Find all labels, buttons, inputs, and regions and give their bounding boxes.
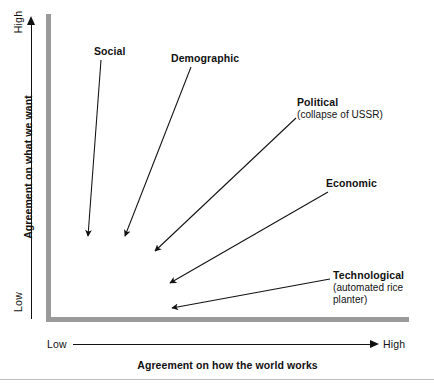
annotation-label-technological: Technological (automated rice planter): [333, 269, 404, 307]
x-axis-title: Agreement on how the world works: [46, 359, 409, 371]
y-axis-title: Agreement on what we want: [22, 82, 34, 252]
y-axis-low-label: Low: [12, 282, 24, 322]
annotation-title-technological: Technological: [333, 269, 404, 282]
bottom-divider: [0, 379, 434, 380]
annotation-arrow-political: [155, 118, 296, 251]
annotation-arrow-economic: [170, 192, 328, 283]
y-axis-bar: [46, 14, 51, 322]
x-axis-bar: [46, 317, 409, 322]
annotation-title-demographic: Demographic: [171, 52, 239, 65]
x-axis-low-label: Low: [47, 338, 67, 350]
x-axis-arrowhead-icon: [370, 340, 379, 348]
x-axis-direction-line: [73, 344, 372, 345]
annotation-title-economic: Economic: [326, 177, 377, 190]
annotation-arrow-demographic: [125, 67, 191, 236]
annotation-title-political: Political: [297, 96, 383, 109]
annotation-title-social: Social: [94, 45, 126, 58]
annotation-arrow-technological: [172, 279, 330, 308]
annotation-label-economic: Economic: [326, 177, 377, 190]
y-axis-arrowhead-icon: [27, 16, 35, 25]
annotation-arrow-social: [88, 60, 101, 236]
annotation-label-social: Social: [94, 45, 126, 58]
y-axis-high-label: High: [12, 2, 24, 42]
annotation-label-demographic: Demographic: [171, 52, 239, 65]
annotation-subtitle-technological-line1: (automated rice: [333, 282, 404, 295]
annotation-subtitle-political: (collapse of USSR): [297, 109, 383, 122]
annotation-label-political: Political (collapse of USSR): [297, 96, 383, 121]
diagram-canvas: High Low Low High Agreement on what we w…: [0, 0, 434, 391]
x-axis-high-label: High: [383, 338, 405, 350]
annotation-subtitle-technological-line2: planter): [333, 294, 404, 307]
